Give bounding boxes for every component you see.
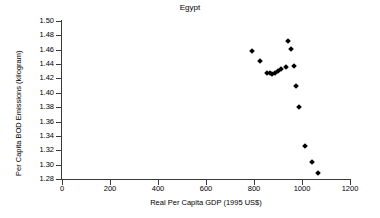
y-tick-label: 1.46 — [32, 46, 54, 54]
y-tick-mark — [56, 50, 61, 51]
y-tick-label: 1.32 — [32, 146, 54, 154]
y-tick-label-wrap: 1.36 — [30, 118, 54, 126]
x-axis-title: Real Per Capita GDP (1995 US$) — [62, 198, 350, 207]
y-tick-label-wrap: 1.32 — [30, 146, 54, 154]
y-tick-mark — [56, 165, 61, 166]
y-tick-mark — [56, 179, 61, 180]
y-tick-label-wrap: 1.44 — [30, 60, 54, 68]
y-tick-label: 1.34 — [32, 132, 54, 140]
y-tick-label: 1.40 — [32, 89, 54, 97]
y-tick-mark — [56, 21, 61, 22]
x-tick-label: 400 — [138, 184, 178, 193]
y-axis-title: Per Capita BOD Emissions (kilogram) — [14, 51, 23, 176]
y-tick-label-wrap: 1.40 — [30, 89, 54, 97]
y-tick-label-wrap: 1.30 — [30, 161, 54, 169]
y-tick-mark — [56, 64, 61, 65]
chart-title: Egypt — [0, 3, 380, 13]
x-tick-label: 0 — [42, 184, 82, 193]
y-tick-mark — [56, 93, 61, 94]
y-tick-label: 1.30 — [32, 161, 54, 169]
chart-container: Egypt Per Capita BOD Emissions (kilogram… — [0, 0, 380, 218]
y-tick-label-wrap: 1.46 — [30, 46, 54, 54]
x-tick-label: 1200 — [330, 184, 370, 193]
y-tick-label-wrap: 1.28 — [30, 175, 54, 183]
y-tick-mark — [56, 35, 61, 36]
y-tick-mark — [56, 150, 61, 151]
y-tick-label-wrap: 1.34 — [30, 132, 54, 140]
y-tick-label: 1.50 — [32, 17, 54, 25]
x-tick-label: 800 — [234, 184, 274, 193]
plot-area — [62, 21, 350, 179]
x-tick-label: 600 — [186, 184, 226, 193]
y-tick-label-wrap: 1.38 — [30, 103, 54, 111]
y-tick-mark — [56, 136, 61, 137]
y-tick-label: 1.48 — [32, 31, 54, 39]
y-tick-mark — [56, 122, 61, 123]
y-tick-label: 1.36 — [32, 118, 54, 126]
y-tick-label: 1.38 — [32, 103, 54, 111]
y-tick-mark — [56, 78, 61, 79]
y-tick-label-wrap: 1.48 — [30, 31, 54, 39]
y-tick-label-wrap: 1.50 — [30, 17, 54, 25]
y-tick-label: 1.42 — [32, 74, 54, 82]
y-tick-mark — [56, 107, 61, 108]
x-tick-label: 200 — [90, 184, 130, 193]
y-tick-label: 1.44 — [32, 60, 54, 68]
y-tick-label: 1.28 — [32, 175, 54, 183]
y-tick-label-wrap: 1.42 — [30, 74, 54, 82]
x-tick-label: 1000 — [282, 184, 322, 193]
